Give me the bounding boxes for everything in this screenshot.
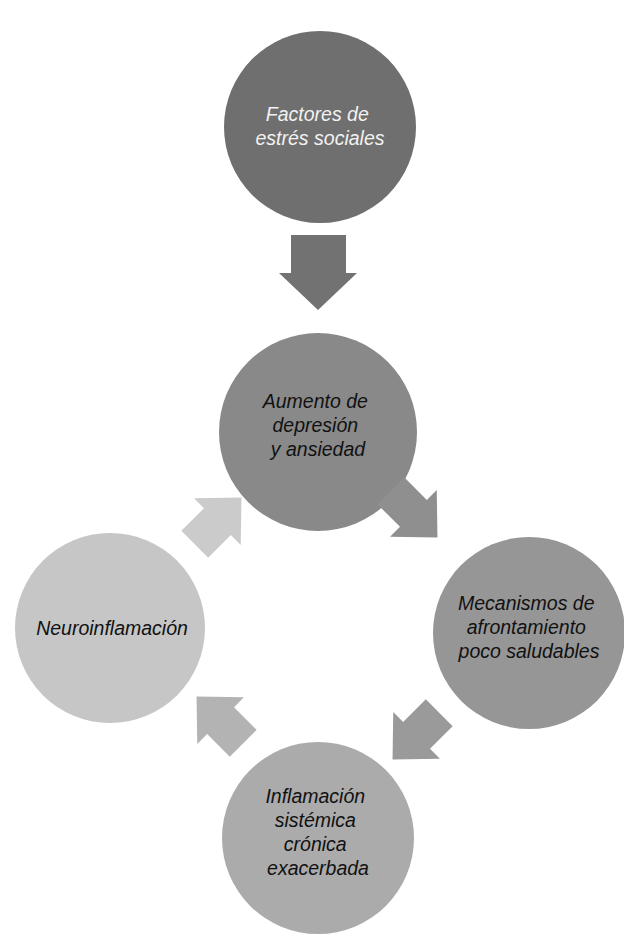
- node-neuroinflammation: Neuroinflamación: [15, 533, 205, 723]
- node-coping: Mecanismos de afrontamiento poco saludab…: [433, 537, 624, 729]
- arrow-up-left-icon: [173, 673, 266, 766]
- node-stressors: Factores de estrés sociales: [224, 31, 416, 223]
- node-neuroinflammation-label: Neuroinflamación: [36, 617, 188, 639]
- node-coping-label: Mecanismos de afrontamiento poco saludab…: [458, 592, 600, 662]
- arrow-down-icon: [279, 235, 357, 310]
- cycle-diagram: Factores de estrés sociales Aumento de d…: [0, 0, 624, 935]
- node-inflammation: Inflamación sistémica crónica exacerbada: [222, 742, 414, 934]
- node-depression-label: Aumento de depresión y ansiedad: [262, 390, 374, 460]
